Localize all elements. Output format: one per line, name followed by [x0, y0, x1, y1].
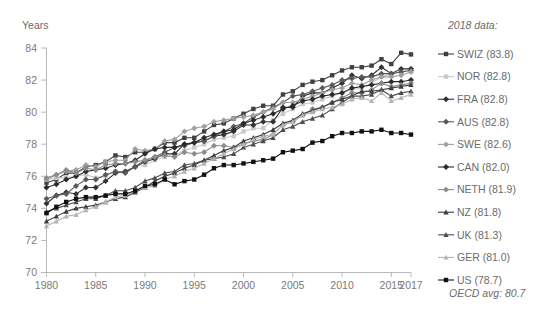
data-point: [231, 134, 235, 138]
data-point: [261, 158, 265, 162]
data-point: [113, 192, 117, 196]
data-point: [281, 150, 285, 154]
data-point: [310, 140, 314, 144]
x-tick-label: 2010: [330, 279, 354, 291]
data-point: [192, 145, 196, 149]
data-point: [261, 104, 265, 108]
legend-item-label: UK (81.3): [457, 229, 502, 241]
data-point: [241, 129, 245, 133]
data-point: [350, 131, 354, 135]
legend-header: 2018 data:: [447, 19, 498, 31]
data-point: [231, 163, 235, 167]
data-point: [261, 126, 265, 130]
data-point: [192, 136, 196, 140]
data-point: [291, 89, 295, 93]
data-point: [389, 62, 393, 66]
life-expectancy-line-chart: Years 7072747678808284 19801985199019952…: [0, 0, 535, 317]
data-point: [350, 65, 354, 69]
y-tick-label: 84: [25, 42, 37, 54]
data-point: [54, 205, 58, 209]
data-point: [409, 132, 413, 136]
data-point: [103, 193, 107, 197]
legend-item-label: GER (81.0): [457, 251, 510, 263]
data-point: [310, 79, 314, 83]
data-point: [241, 161, 245, 165]
data-point: [409, 52, 413, 56]
data-point: [444, 52, 448, 56]
data-point: [399, 51, 403, 55]
x-tick-label: 1985: [84, 279, 108, 291]
data-point: [330, 73, 334, 77]
data-point: [369, 63, 373, 67]
legend-item-label: AUS (82.8): [457, 116, 509, 128]
data-point: [133, 189, 137, 193]
x-tick-label: 1980: [35, 279, 59, 291]
data-point: [192, 177, 196, 181]
data-point: [340, 68, 344, 72]
data-point: [74, 197, 78, 201]
data-point: [123, 192, 127, 196]
data-point: [94, 195, 98, 199]
y-tick-label: 76: [25, 170, 37, 182]
data-point: [153, 182, 157, 186]
data-point: [330, 134, 334, 138]
data-point: [300, 83, 304, 87]
x-tick-label: 2017: [399, 279, 423, 291]
data-point: [143, 184, 147, 188]
data-point: [222, 163, 226, 167]
legend-item-label: US (78.7): [457, 274, 502, 286]
y-tick-label: 80: [25, 106, 37, 118]
legend-item-label: SWIZ (83.8): [457, 48, 514, 60]
data-point: [340, 131, 344, 135]
data-point: [389, 131, 393, 135]
data-point: [44, 211, 48, 215]
data-point: [291, 148, 295, 152]
legend-item-label: NOR (82.8): [457, 70, 511, 82]
x-tick-label: 1990: [133, 279, 157, 291]
data-point: [369, 129, 373, 133]
data-point: [64, 200, 68, 204]
x-tick-label: 1995: [183, 279, 207, 291]
legend-item-label: NETH (81.9): [457, 183, 516, 195]
data-point: [379, 57, 383, 61]
data-point: [320, 139, 324, 143]
data-point: [172, 182, 176, 186]
y-axis-title: Years: [22, 19, 48, 31]
data-point: [251, 160, 255, 164]
data-point: [281, 112, 285, 116]
data-point: [212, 166, 216, 170]
data-point: [163, 177, 167, 181]
data-point: [182, 136, 186, 140]
data-point: [320, 78, 324, 82]
data-point: [251, 107, 255, 111]
data-point: [379, 128, 383, 132]
data-point: [202, 129, 206, 133]
y-tick-label: 70: [25, 266, 37, 278]
y-tick-label: 82: [25, 74, 37, 86]
x-tick-label: 2005: [281, 279, 305, 291]
data-point: [444, 278, 448, 282]
data-point: [84, 195, 88, 199]
data-point: [360, 129, 364, 133]
y-tick-label: 72: [25, 234, 37, 246]
legend-item-label: NZ (81.8): [457, 206, 501, 218]
data-point: [444, 74, 448, 78]
data-point: [281, 92, 285, 96]
y-tick-label: 74: [25, 202, 37, 214]
x-tick-label: 2000: [232, 279, 256, 291]
chart-background: [0, 0, 535, 317]
y-tick-label: 78: [25, 138, 37, 150]
legend-item-label: FRA (82.8): [457, 93, 508, 105]
data-point: [113, 153, 117, 157]
data-point: [300, 147, 304, 151]
legend-item-label: SWE (82.6): [457, 138, 511, 150]
legend-item-label: CAN (82.0): [457, 161, 510, 173]
data-point: [202, 172, 206, 176]
data-point: [271, 156, 275, 160]
data-point: [399, 131, 403, 135]
data-point: [182, 179, 186, 183]
data-point: [360, 65, 364, 69]
legend-footnote: OECD avg: 80.7: [449, 287, 527, 299]
